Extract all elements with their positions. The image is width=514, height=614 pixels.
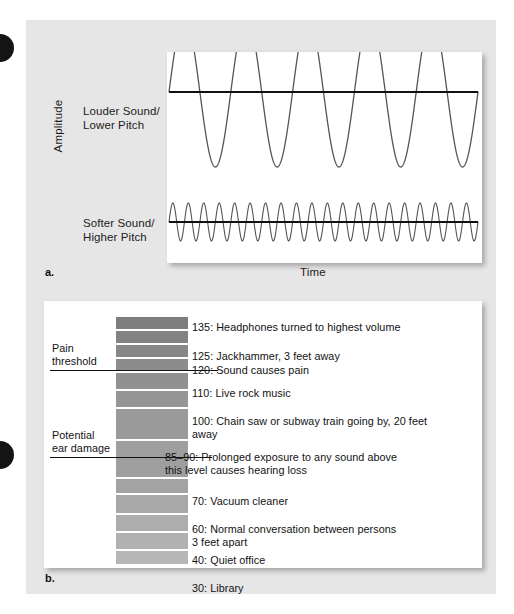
- decibel-level-label: 70: Vacuum cleaner: [192, 495, 476, 508]
- decibel-bar-segment: [116, 409, 188, 441]
- softer-sound-label: Softer Sound/ Higher Pitch: [83, 216, 169, 244]
- decibel-level-label: 100: Chain saw or subway train going by,…: [192, 415, 476, 440]
- decibel-chart-panel: 135: Headphones turned to highest volume…: [44, 301, 482, 568]
- decibel-level-label: 85–90: Prolonged exposure to any sound a…: [165, 451, 449, 476]
- time-axis-label: Time: [300, 266, 326, 278]
- decibel-bar-segment: [116, 373, 188, 391]
- decibel-bar-segment: [116, 391, 188, 409]
- decibel-bar-segment: [116, 515, 188, 533]
- edge-marker-dot-top: [0, 34, 14, 62]
- decibel-level-label: 120: Sound causes pain: [192, 364, 476, 377]
- decibel-bar-segment: [116, 495, 188, 515]
- decibel-bar-segment: [116, 479, 188, 495]
- decibel-level-label: 60: Normal conversation between persons …: [192, 523, 476, 548]
- panel-a-letter: a.: [45, 266, 54, 278]
- waveform-chart-panel: [167, 52, 482, 263]
- panel-b-letter: b.: [45, 572, 55, 584]
- decibel-bar-segment: [116, 551, 188, 566]
- decibel-side-label-pain-threshold: Pain threshold: [52, 342, 116, 367]
- decibel-level-label: 125: Jackhammer, 3 feet away: [192, 350, 476, 363]
- decibel-level-label: 40: Quiet office: [192, 554, 476, 567]
- decibel-side-label-potential-ear-damage: Potential ear damage: [52, 429, 116, 454]
- amplitude-axis-label: Amplitude: [52, 66, 64, 186]
- decibel-level-label: 135: Headphones turned to highest volume: [192, 321, 476, 334]
- decibel-bar-segment: [116, 533, 188, 551]
- decibel-chart-content: 135: Headphones turned to highest volume…: [44, 301, 482, 568]
- decibel-bar-segment: [116, 345, 188, 359]
- waveform-svg: [167, 52, 482, 263]
- edge-marker-dot-bottom: [0, 441, 14, 469]
- decibel-bar-segment: [116, 317, 188, 331]
- sound-waves-and-decibel-figure: Amplitude Louder Sound/ Lower Pitch Soft…: [0, 0, 514, 614]
- ear-damage-threshold-line: [50, 457, 212, 458]
- decibel-level-label: 110: Live rock music: [192, 387, 476, 400]
- decibel-bar-segment: [116, 331, 188, 345]
- decibel-gradient-bar: [116, 309, 188, 558]
- decibel-level-label: 30: Library: [192, 582, 476, 595]
- pain-threshold-line: [50, 370, 218, 371]
- louder-sound-label: Louder Sound/ Lower Pitch: [83, 104, 169, 132]
- louder-sound-waveform: [169, 52, 478, 167]
